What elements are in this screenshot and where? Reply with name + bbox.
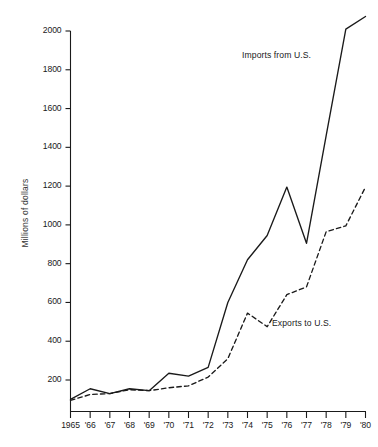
x-axis-ticks bbox=[71, 412, 366, 418]
line-chart: Millions of dollars 20001800160014001200… bbox=[0, 0, 378, 447]
y-axis-ticks bbox=[66, 31, 71, 380]
series-line-imports-from-u-s bbox=[71, 16, 366, 399]
series-line-exports-to-u-s bbox=[71, 187, 366, 400]
axes bbox=[71, 31, 367, 412]
plot-area bbox=[0, 0, 378, 447]
data-series bbox=[71, 16, 366, 400]
